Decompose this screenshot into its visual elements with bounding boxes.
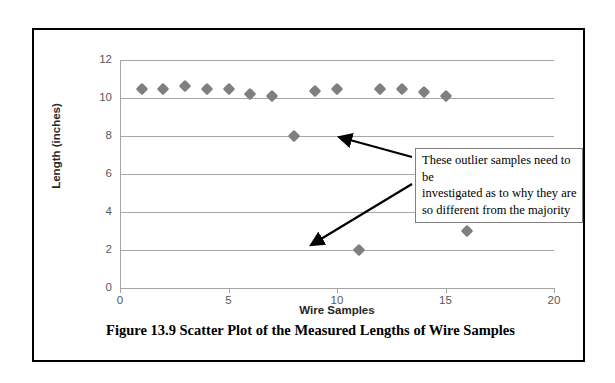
ytick-label-2: 2 [72,243,112,255]
figure-frame: 12 10 8 6 4 2 0 Length (inches) 0 5 10 1… [32,28,585,362]
figure-caption: Figure 13.9 Scatter Plot of the Measured… [34,322,587,339]
scatter-chart: 12 10 8 6 4 2 0 Length (inches) 0 5 10 1… [34,30,587,320]
annotation-line-1: These outlier samples need to be [422,152,577,185]
xtick-mark-0 [120,289,121,293]
xtick-mark-20 [554,289,555,293]
ytick-label-4: 4 [72,205,112,217]
annotation-line-2: investigated as to why they are [422,185,577,202]
ytick-label-12: 12 [72,53,112,65]
x-axis-title: Wire Samples [120,304,554,316]
ytick-label-6: 6 [72,167,112,179]
annotation-line-3: so different from the majority [422,202,577,219]
xtick-mark-15 [446,289,447,293]
ytick-label-10: 10 [72,91,112,103]
y-axis-title: Length (inches) [50,76,62,216]
ytick-label-8: 8 [72,129,112,141]
xtick-mark-10 [337,289,338,293]
annotation-callout: These outlier samples need to be investi… [415,148,583,223]
xtick-mark-5 [229,289,230,293]
ytick-label-0: 0 [72,281,112,293]
